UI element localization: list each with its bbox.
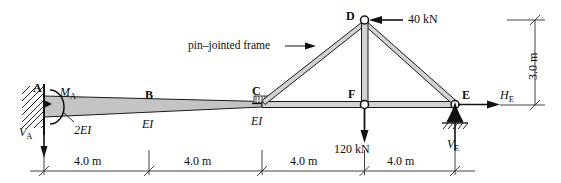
annotation-leader-line — [285, 43, 316, 50]
load-arrow-40kn — [369, 16, 403, 24]
reaction-label-va-subscript: A — [26, 131, 32, 141]
stiffness-label-ei-right: EI — [251, 115, 262, 127]
reaction-label-ma: MA — [60, 86, 76, 101]
reaction-label-he: HE — [500, 89, 514, 104]
pin-joint-d — [361, 16, 369, 24]
dimension-label-span-1: 4.0 m — [74, 155, 101, 167]
dimension-label-span-2: 4.0 m — [184, 155, 211, 167]
truss-member-df — [362, 21, 369, 104]
dimension-label-height: 3.0 m — [527, 53, 539, 80]
reaction-label-va: VA — [19, 126, 32, 141]
node-label-f: F — [348, 88, 355, 100]
dimension-label-span-3: 4.0 m — [290, 155, 317, 167]
truss-member-de — [362, 19, 457, 105]
node-label-c: C — [252, 85, 261, 97]
load-label-40kn: 40 kN — [408, 13, 438, 25]
structural-diagram: A B C D E F 2EI EI EI 40 kN 120 kN MA VA… — [0, 0, 561, 183]
reaction-label-ma-subscript: A — [70, 91, 76, 101]
stiffness-label-2ei: 2EI — [74, 124, 91, 136]
reaction-label-he-subscript: E — [509, 94, 514, 104]
load-arrow-120kn — [361, 108, 369, 143]
reaction-label-ve-subscript: E — [454, 143, 459, 153]
load-label-120kn: 120 kN — [334, 143, 370, 155]
truss-bottom-chord — [262, 102, 455, 108]
reaction-label-ma-symbol: M — [60, 85, 70, 99]
node-label-d: D — [346, 10, 355, 22]
dimension-label-span-4: 4.0 m — [387, 155, 414, 167]
node-label-e: E — [462, 89, 470, 101]
pin-joint-f — [361, 101, 369, 109]
reaction-label-ve: VE — [447, 138, 460, 153]
node-label-b: B — [145, 89, 153, 101]
annotation-pin-jointed-frame: pin–jointed frame — [188, 40, 270, 52]
node-label-a: A — [33, 82, 42, 94]
stiffness-label-ei-left: EI — [142, 118, 153, 130]
reaction-label-he-symbol: H — [500, 88, 509, 102]
